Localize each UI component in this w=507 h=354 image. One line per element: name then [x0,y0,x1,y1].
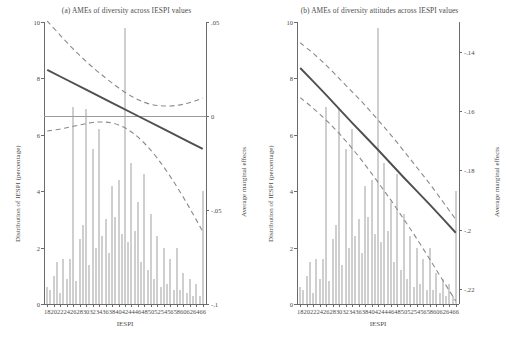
x-tick-label: 40 [115,308,121,315]
series-overlay [44,22,206,304]
x-tick-mark [112,304,113,307]
x-tick-label: 32 [342,308,348,315]
x-tick-label: 28 [76,308,82,315]
x-tick-mark [320,304,321,307]
x-tick-label: 18 [44,308,50,315]
x-tick-mark [99,304,100,307]
y-tick-label-left: 4 [37,188,40,195]
y-tick-label-right: 0 [211,113,214,120]
x-tick-label: 52 [407,308,413,315]
x-tick-label: 32 [89,308,95,315]
x-tick-mark [365,304,366,307]
panel-a: (a) AMEs of diversity across IESPI value… [0,0,253,354]
x-tick-label: 38 [362,308,368,315]
x-tick-label: 28 [329,308,335,315]
x-tick-label: 44 [128,308,134,315]
x-tick-mark [443,304,444,307]
x-tick-mark [54,304,55,307]
y-tick-mark-right [206,22,209,23]
x-tick-label: 34 [96,308,102,315]
x-tick-label: 18 [297,308,303,315]
x-tick-mark [177,304,178,307]
y-tick-mark-right [459,230,462,231]
x-tick-label: 50 [148,308,154,315]
x-tick-label: 66 [453,308,459,315]
x-tick-label: 56 [167,308,173,315]
x-tick-mark [307,304,308,307]
x-tick-mark [60,304,61,307]
x-tick-mark [80,304,81,307]
x-tick-mark [397,304,398,307]
y-tick-label-left: 0 [37,301,40,308]
x-tick-mark [125,304,126,307]
x-tick-label: 42 [122,308,128,315]
x-tick-mark [190,304,191,307]
y-tick-label-right: -.18 [464,167,474,174]
y-tick-label-left: 6 [290,131,293,138]
y-tick-label-left: 2 [290,244,293,251]
y-tick-mark-left [41,304,44,305]
x-tick-label: 36 [102,308,108,315]
x-tick-mark [131,304,132,307]
x-tick-label: 62 [440,308,446,315]
x-tick-mark [67,304,68,307]
panel-a-ylabel-right: Average marginal effects [240,147,248,217]
x-tick-label: 24 [63,308,69,315]
x-tick-mark [203,304,204,307]
y-axis-right [206,22,207,304]
y-tick-mark-right [459,111,462,112]
x-tick-mark [300,304,301,307]
confidence-interval-line [300,43,456,220]
x-tick-mark [456,304,457,307]
y-tick-label-left: 10 [33,19,40,26]
ame-line [47,70,203,149]
x-tick-label: 66 [200,308,206,315]
x-tick-mark [144,304,145,307]
x-tick-label: 42 [375,308,381,315]
x-tick-mark [352,304,353,307]
y-tick-label-left: 10 [286,19,293,26]
y-tick-label-right: -.1 [211,301,218,308]
x-tick-mark [346,304,347,307]
x-tick-mark [417,304,418,307]
series-overlay [297,22,459,304]
x-tick-label: 50 [401,308,407,315]
panel-a-xlabel: IESPI [44,320,206,328]
x-tick-label: 64 [193,308,199,315]
y-tick-mark-right [459,289,462,290]
x-tick-mark [93,304,94,307]
y-tick-label-left: 8 [37,75,40,82]
x-tick-mark [170,304,171,307]
x-tick-label: 30 [336,308,342,315]
x-tick-label: 60 [433,308,439,315]
x-tick-label: 60 [180,308,186,315]
x-tick-label: 56 [420,308,426,315]
x-tick-label: 36 [355,308,361,315]
x-tick-label: 62 [187,308,193,315]
x-tick-mark [378,304,379,307]
x-tick-label: 44 [381,308,387,315]
x-tick-label: 20 [51,308,57,315]
y-tick-label-right: -.05 [211,207,221,214]
x-tick-mark [436,304,437,307]
panel-b: (b) AMEs of diversity attitudes across I… [253,0,506,354]
y-tick-label-right: -.14 [464,48,474,55]
panel-a-ylabel-left: Distribution of IESPI (percentage) [14,145,22,242]
y-tick-label-left: 2 [37,244,40,251]
x-tick-label: 58 [174,308,180,315]
x-tick-label: 38 [109,308,115,315]
x-tick-label: 30 [83,308,89,315]
x-tick-label: 24 [316,308,322,315]
y-tick-label-left: 6 [37,131,40,138]
x-tick-label: 40 [368,308,374,315]
x-tick-mark [164,304,165,307]
panel-b-xlabel: IESPI [297,320,459,328]
x-tick-mark [372,304,373,307]
x-tick-label: 20 [304,308,310,315]
x-tick-label: 46 [135,308,141,315]
ame-line [300,68,456,233]
x-tick-mark [359,304,360,307]
confidence-interval-line [300,98,456,301]
x-tick-label: 48 [141,308,147,315]
y-tick-mark-right [206,304,209,305]
